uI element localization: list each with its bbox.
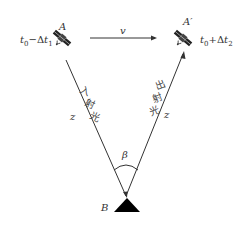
velocity-arrow xyxy=(90,36,157,41)
satellite-geometry-diagram: A t0−Δt1 A′ t0+Δt2 v 入 射 光 z 出 射 光 z β B xyxy=(0,0,242,232)
incident-ray-line xyxy=(66,60,126,196)
velocity-label: v xyxy=(120,26,126,36)
satellite-a-time-label: t0−Δt1 xyxy=(20,35,53,48)
outgoing-distance-label: z xyxy=(164,110,169,120)
satellite-icon xyxy=(170,29,193,51)
angle-label: β xyxy=(122,150,128,160)
incident-arrowhead xyxy=(123,192,128,199)
satellite-a-prime-time-label: t0+Δt2 xyxy=(200,35,233,48)
ground-station-icon xyxy=(114,198,140,212)
incident-distance-label: z xyxy=(70,112,75,122)
satellite-a-prime-label: A′ xyxy=(183,17,193,27)
ground-station-label: B xyxy=(101,203,108,213)
satellite-a-label: A xyxy=(59,22,66,32)
angle-arc xyxy=(114,165,138,170)
outgoing-ray-line xyxy=(126,51,186,196)
